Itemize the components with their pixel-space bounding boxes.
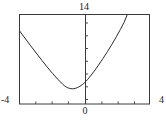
origin-label: 0 [2, 106, 166, 116]
plot-background [20, 15, 150, 105]
x-max-label: 4 [159, 95, 164, 105]
parabola-graph-figure: 14 -4 4 0 [0, 0, 166, 121]
y-max-label: 14 [1, 2, 166, 12]
plot-area [0, 0, 166, 121]
x-min-label: -4 [1, 95, 9, 105]
